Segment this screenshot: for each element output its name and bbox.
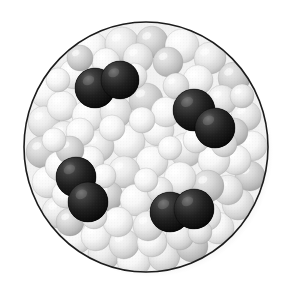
molecular-figure [0, 0, 285, 297]
molecular-diagram-svg [0, 0, 285, 297]
halftone-texture [24, 22, 268, 272]
